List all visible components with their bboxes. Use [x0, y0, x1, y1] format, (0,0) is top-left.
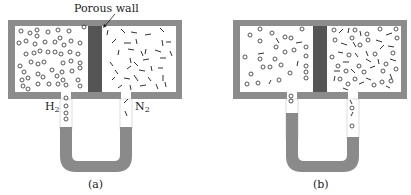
caption-a: (a): [88, 178, 103, 191]
h2-label: H2: [45, 100, 60, 114]
manometer-fluid-a: [60, 127, 132, 172]
panel-a: [8, 14, 182, 172]
n2-label: N2: [135, 100, 150, 114]
h2-symbol: H: [45, 100, 55, 113]
h2-subscript: 2: [55, 105, 60, 114]
n2-subscript: 2: [145, 105, 150, 114]
porous-wall-a: [88, 26, 102, 92]
n2-symbol: N: [135, 100, 145, 113]
caption-b: (b): [313, 178, 329, 191]
porous-wall-b: [313, 26, 327, 92]
diffusion-diagram: [0, 0, 411, 195]
porous-wall-label: Porous wall: [74, 2, 139, 15]
panel-b: [233, 20, 407, 172]
